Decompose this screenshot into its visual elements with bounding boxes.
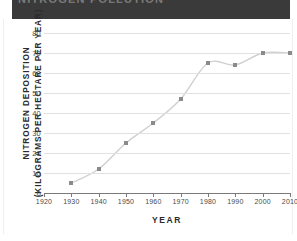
- x-tick-mark: [153, 193, 154, 197]
- gridline-y: [44, 113, 290, 114]
- plot-area: 0102030405060708019201930194019501960197…: [44, 33, 290, 193]
- x-tick-label: 2000: [248, 198, 278, 205]
- x-tick-mark: [181, 193, 182, 197]
- data-point: [206, 61, 210, 65]
- y-tick-label: 80: [13, 29, 41, 38]
- gridline-y: [44, 33, 290, 34]
- gridline-y: [44, 93, 290, 94]
- x-tick-label: 1950: [111, 198, 141, 205]
- y-tick-label: 60: [13, 69, 41, 78]
- x-tick-label: 1920: [29, 198, 59, 205]
- y-axis-title-line1: NITROGEN DEPOSITION: [22, 46, 31, 159]
- data-point: [69, 181, 73, 185]
- x-tick-mark: [290, 193, 291, 197]
- x-tick-mark: [263, 193, 264, 197]
- y-tick-label: 10: [13, 169, 41, 178]
- x-tick-mark: [99, 193, 100, 197]
- x-tick-label: 1970: [166, 198, 196, 205]
- y-tick-label: 0: [13, 189, 41, 198]
- x-tick-label: 1940: [84, 198, 114, 205]
- data-point: [233, 63, 237, 67]
- x-tick-label: 1930: [56, 198, 86, 205]
- y-tick-label: 40: [13, 109, 41, 118]
- gridline-y: [44, 133, 290, 134]
- y-tick-label: 20: [13, 149, 41, 158]
- x-tick-label: 1990: [220, 198, 250, 205]
- page-banner: NITROGEN POLLUTION: [12, 0, 290, 19]
- gridline-y: [44, 73, 290, 74]
- x-tick-mark: [208, 193, 209, 197]
- x-axis-title: YEAR: [44, 215, 290, 225]
- data-point: [261, 51, 265, 55]
- y-tick-label: 30: [13, 129, 41, 138]
- data-point: [124, 141, 128, 145]
- gridline-y: [44, 173, 290, 174]
- gridline-y: [44, 193, 290, 194]
- y-tick-label: 70: [13, 49, 41, 58]
- x-tick-mark: [44, 193, 45, 197]
- x-tick-mark: [71, 193, 72, 197]
- banner-crop-overlay: [12, 0, 290, 19]
- data-point: [97, 167, 101, 171]
- gridline-y: [44, 153, 290, 154]
- x-tick-mark: [235, 193, 236, 197]
- data-point: [179, 97, 183, 101]
- x-tick-label: 1980: [193, 198, 223, 205]
- data-point: [151, 121, 155, 125]
- x-tick-label: 1960: [138, 198, 168, 205]
- data-point: [288, 51, 292, 55]
- gridline-y: [44, 53, 290, 54]
- x-tick-mark: [126, 193, 127, 197]
- y-tick-label: 50: [13, 89, 41, 98]
- nitrogen-deposition-chart: NITROGEN DEPOSITION (KILOGRAMS PER HECTA…: [0, 19, 297, 241]
- screenshot-root: NITROGEN POLLUTION NITROGEN DEPOSITION (…: [0, 0, 297, 241]
- x-tick-label: 2010: [275, 198, 297, 205]
